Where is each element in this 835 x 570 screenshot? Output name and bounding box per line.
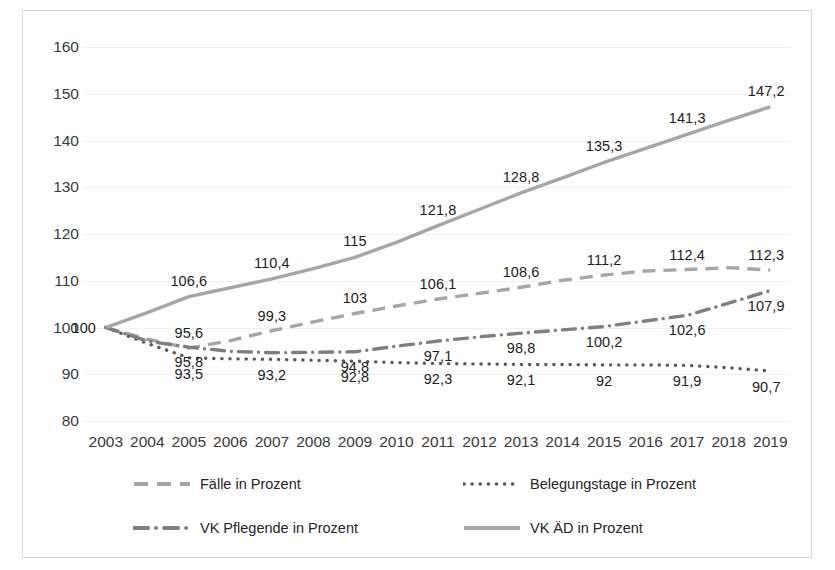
data-label-2-2019: 107,9 [748, 298, 785, 314]
legend-label-1: Belegungstage in Prozent [530, 476, 696, 492]
y-axis-tick-130: 130 [33, 179, 79, 194]
data-label-2-2011: 97,1 [424, 348, 453, 364]
data-label-2-2005: 95,8 [175, 354, 204, 370]
data-label-3-2015: 135,3 [586, 138, 623, 154]
x-axis-tick-2009: 2009 [334, 431, 376, 455]
data-label-0-2011: 106,1 [420, 276, 457, 292]
data-label-1-2007: 93,2 [258, 367, 287, 383]
y-axis-tick-140: 140 [33, 133, 79, 148]
data-label-0-2003: 100 [72, 320, 97, 336]
y-axis-tick-160: 160 [33, 39, 79, 54]
dashed-line-marker [133, 479, 191, 489]
y-axis: 1601501401301201101009080 [23, 47, 79, 421]
chart-container: 1601501401301201101009080 10095,699,3103… [22, 10, 812, 558]
legend-item-3[interactable]: VK ÄD in Prozent [463, 517, 643, 539]
data-label-0-2017: 112,4 [669, 247, 705, 263]
legend-label-3: VK ÄD in Prozent [530, 520, 643, 536]
data-label-3-2007: 110,4 [254, 255, 290, 271]
legend-label-0: Fälle in Prozent [200, 476, 301, 492]
data-label-3-2011: 121,8 [420, 202, 457, 218]
dashdot-line-marker [133, 523, 191, 533]
x-axis-tick-2014: 2014 [542, 431, 584, 455]
y-axis-tick-110: 110 [33, 273, 79, 288]
x-axis-tick-2007: 2007 [251, 431, 293, 455]
data-label-3-2019: 147,2 [748, 83, 785, 99]
data-label-0-2007: 99,3 [258, 308, 287, 324]
legend-item-2[interactable]: VK Pflegende in Prozent [133, 517, 358, 539]
x-axis-tick-2006: 2006 [210, 431, 252, 455]
data-label-2-2015: 100,2 [586, 334, 623, 350]
y-axis-tick-150: 150 [33, 86, 79, 101]
x-axis-tick-2017: 2017 [666, 431, 708, 455]
x-axis: 2003200420052006200720082009201020112012… [85, 431, 791, 455]
data-label-0-2005: 95,6 [175, 325, 204, 341]
data-label-1-2019: 90,7 [752, 379, 781, 395]
x-axis-tick-2011: 2011 [417, 431, 459, 455]
data-label-3-2017: 141,3 [669, 110, 706, 126]
legend-item-0[interactable]: Fälle in Prozent [133, 473, 301, 495]
data-label-0-2009: 103 [343, 290, 368, 306]
x-axis-tick-2008: 2008 [293, 431, 335, 455]
data-label-1-2015: 92 [596, 373, 612, 389]
data-label-3-2005: 106,6 [170, 273, 207, 289]
x-axis-tick-2013: 2013 [500, 431, 542, 455]
y-axis-tick-120: 120 [33, 226, 79, 241]
data-label-1-2013: 92,1 [507, 372, 536, 388]
y-axis-tick-80: 80 [33, 413, 79, 428]
chart-legend: Fälle in ProzentBelegungstage in Prozent… [133, 473, 733, 547]
gridline-80 [85, 421, 791, 422]
data-label-0-2019: 112,3 [748, 247, 784, 263]
y-axis-tick-90: 90 [33, 366, 79, 381]
data-label-0-2013: 108,6 [503, 264, 540, 280]
legend-label-2: VK Pflegende in Prozent [200, 520, 358, 536]
x-axis-tick-2003: 2003 [85, 431, 127, 455]
data-label-3-2009: 115 [343, 233, 366, 249]
data-label-2-2013: 98,8 [507, 340, 536, 356]
dotted-line-marker [463, 479, 521, 489]
data-label-0-2015: 111,2 [587, 252, 622, 268]
x-axis-tick-2016: 2016 [625, 431, 667, 455]
x-axis-tick-2019: 2019 [750, 431, 792, 455]
x-axis-tick-2018: 2018 [708, 431, 750, 455]
x-axis-tick-2015: 2015 [583, 431, 625, 455]
data-label-1-2011: 92,3 [424, 371, 453, 387]
solid-line-marker [463, 523, 521, 533]
legend-item-1[interactable]: Belegungstage in Prozent [463, 473, 696, 495]
x-axis-tick-2005: 2005 [168, 431, 210, 455]
x-axis-tick-2004: 2004 [127, 431, 169, 455]
x-axis-tick-2012: 2012 [459, 431, 501, 455]
plot-area: 10095,699,3103106,1108,6111,2112,4112,39… [85, 47, 791, 421]
data-label-3-2013: 128,8 [503, 169, 540, 185]
data-label-2-2009: 94,8 [341, 359, 370, 375]
data-label-2-2017: 102,6 [669, 322, 706, 338]
data-label-1-2017: 91,9 [673, 373, 702, 389]
x-axis-tick-2010: 2010 [376, 431, 418, 455]
